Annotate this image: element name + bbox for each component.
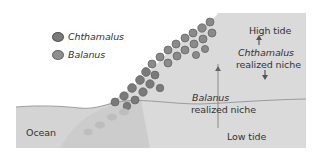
legend-label-chthamalus: Chthamalus (68, 32, 124, 42)
low-tide-label: Low tide (227, 132, 266, 142)
chthamalus-niche-label: realized niche (236, 60, 301, 70)
ocean-label: Ocean (26, 128, 56, 138)
balanus-barnacle-icon (52, 50, 64, 60)
balanus-niche-label: realized niche (191, 105, 256, 115)
chthamalus-barnacle-icon (52, 32, 64, 42)
legend-item-balanus: Balanus (52, 50, 105, 60)
balanus-niche-name: Balanus (192, 93, 229, 103)
chthamalus-niche-name: Chthamalus (238, 48, 294, 58)
legend-label-balanus: Balanus (68, 50, 105, 60)
niche-diagram: Chthamalus Balanus High tide Chthamalus … (0, 0, 316, 165)
high-tide-label: High tide (249, 26, 291, 36)
legend-item-chthamalus: Chthamalus (52, 32, 124, 42)
